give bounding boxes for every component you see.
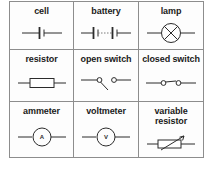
open-switch-symbol-icon: [74, 64, 138, 101]
circuit-symbol-table: cell battery: [9, 1, 204, 158]
symbol-label: resistor: [25, 54, 57, 64]
cell-symbol-icon: [10, 16, 73, 49]
symbol-cell-voltmeter: voltmeter V: [74, 102, 139, 158]
variable-resistor-symbol-icon: [139, 126, 203, 157]
resistor-symbol-icon: [10, 64, 73, 101]
voltmeter-letter: V: [104, 134, 108, 140]
table-row: resistor open switch: [10, 50, 204, 102]
symbol-cell-lamp: lamp: [139, 2, 204, 50]
battery-symbol-icon: [74, 16, 138, 49]
symbol-cell-cell: cell: [10, 2, 74, 50]
symbol-label: voltmeter: [86, 106, 126, 116]
table-row: ammeter A voltmeter: [10, 102, 204, 158]
ammeter-letter: A: [39, 134, 44, 140]
symbol-label: cell: [34, 6, 49, 16]
closed-switch-symbol-icon: [139, 64, 203, 101]
symbol-label: variable resistor: [154, 106, 187, 126]
symbol-label: battery: [91, 6, 120, 16]
table-row: cell battery: [10, 2, 204, 50]
symbol-cell-open-switch: open switch: [74, 50, 139, 102]
lamp-symbol-icon: [139, 16, 203, 49]
symbol-cell-battery: battery: [74, 2, 139, 50]
symbol-label: open switch: [81, 54, 132, 64]
symbol-cell-resistor: resistor: [10, 50, 74, 102]
symbol-label: ammeter: [23, 106, 60, 116]
symbol-cell-variable-resistor: variable resistor: [139, 102, 204, 158]
symbol-cell-ammeter: ammeter A: [10, 102, 74, 158]
voltmeter-symbol-icon: V: [74, 116, 138, 157]
ammeter-symbol-icon: A: [10, 116, 73, 157]
symbol-label: closed switch: [142, 54, 200, 64]
symbol-cell-closed-switch: closed switch: [139, 50, 204, 102]
symbol-label: lamp: [161, 6, 182, 16]
